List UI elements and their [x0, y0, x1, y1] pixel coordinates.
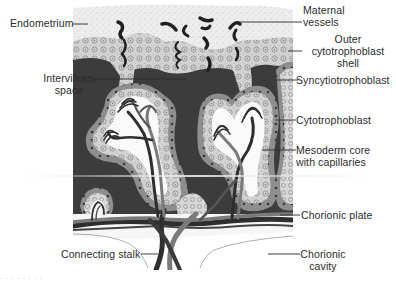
label-connecting-stalk: Connecting stalk	[61, 248, 140, 260]
label-mesoderm-core: Mesoderm core with capillaries	[296, 144, 370, 168]
label-mesoderm-line1: Mesoderm core	[296, 144, 370, 156]
label-maternal-vessels-line2: vessels	[303, 16, 345, 28]
label-outer-shell-line3: shell	[301, 57, 395, 69]
label-maternal-vessels-line1: Maternal	[303, 4, 345, 16]
label-intervillous-space: Intervillous space	[40, 72, 98, 96]
label-endometrium: Endometrium	[10, 17, 74, 29]
scan-footnote-artifact: · · · · · · · ·	[0, 275, 43, 281]
label-chorionic-plate: Chorionic plate	[301, 209, 373, 221]
label-outer-shell-line2: cytotrophoblast	[301, 45, 395, 57]
label-cytotrophoblast: Cytotrophoblast	[296, 114, 371, 126]
label-intervillous-line1: Intervillous	[40, 72, 98, 84]
scan-artifact	[0, 175, 396, 177]
label-chorionic-cavity: Chorionic cavity	[298, 248, 348, 272]
label-maternal-vessels: Maternal vessels	[303, 4, 345, 28]
placenta-diagram: Endometrium Maternal vessels Outer cytot…	[0, 0, 396, 282]
label-mesoderm-line2: with capillaries	[296, 156, 370, 168]
label-outer-shell-line1: Outer	[301, 33, 395, 45]
label-chorionic-cavity-line2: cavity	[298, 260, 348, 272]
label-intervillous-line2: space	[40, 84, 98, 96]
label-chorionic-cavity-line1: Chorionic	[298, 248, 348, 260]
label-outer-cytotrophoblast-shell: Outer cytotrophoblast shell	[301, 33, 395, 69]
label-syncytiotrophoblast: Syncytiotrophoblast	[296, 74, 390, 86]
